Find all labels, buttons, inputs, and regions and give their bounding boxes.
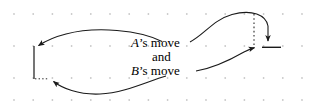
arrow-b-move-left <box>54 76 167 94</box>
label-b-rest: ’s move <box>139 63 180 78</box>
figure-canvas: A’s move and B’s move <box>0 0 321 111</box>
label-b-variable: B <box>131 63 139 78</box>
label-and: and <box>152 50 171 63</box>
arrow-a-move-right <box>190 12 268 42</box>
arrow-b-move-right <box>196 48 255 71</box>
label-a-rest: ’s move <box>139 35 180 50</box>
label-b-move: B’s move <box>131 64 180 77</box>
label-a-move: A’s move <box>131 36 180 49</box>
label-a-variable: A <box>131 35 139 50</box>
